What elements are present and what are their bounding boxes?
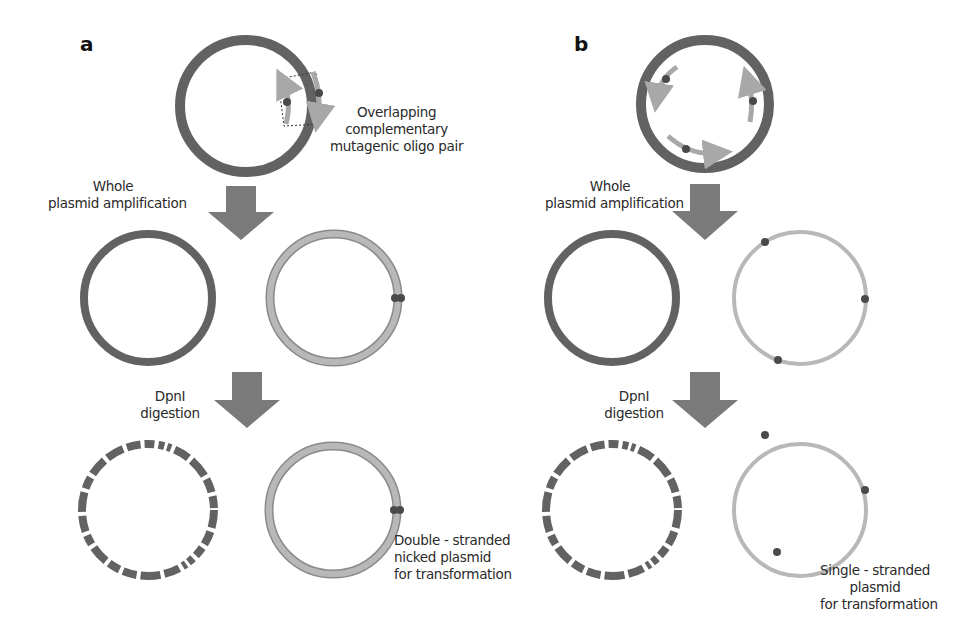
label-line: Whole xyxy=(48,178,178,195)
result-label-a: Double - stranded nicked plasmid for tra… xyxy=(394,532,512,583)
mutation-dot xyxy=(749,97,757,105)
mutation-dot xyxy=(773,548,781,556)
mutation-dot xyxy=(861,295,869,303)
label-line: mutagenic oligo pair xyxy=(330,138,463,155)
result-label-b: Single - stranded plasmid for transforma… xyxy=(820,562,930,613)
panel-b-letter: b xyxy=(574,32,588,56)
primer-arrow-icon xyxy=(668,136,718,153)
label-line: plasmid amplification xyxy=(545,195,675,212)
mutation-dot xyxy=(396,506,404,514)
oligo-pair-label: Overlapping complementary mutagenic olig… xyxy=(330,104,463,155)
mutation-dot xyxy=(761,431,769,439)
step2-label-b: DpnI digestion xyxy=(604,388,664,422)
label-line: complementary xyxy=(330,121,463,138)
mutation-dot xyxy=(315,89,323,97)
label-line: Single - stranded xyxy=(820,562,930,579)
template-plasmid-a xyxy=(180,40,312,172)
label-line: for transformation xyxy=(820,596,930,613)
label-line: DpnI xyxy=(140,388,200,405)
mutation-dot xyxy=(774,356,782,364)
label-line: plasmid amplification xyxy=(48,195,178,212)
down-arrow-icon xyxy=(672,184,738,240)
label-line: DpnI xyxy=(604,388,664,405)
label-line: digestion xyxy=(604,405,664,422)
step2-label-a: DpnI digestion xyxy=(140,388,200,422)
down-arrow-icon xyxy=(208,186,274,240)
mutation-dot xyxy=(397,294,405,302)
down-arrow-icon xyxy=(672,372,738,428)
parental-plasmid-b xyxy=(548,234,676,362)
digested-plasmid-a xyxy=(82,444,214,576)
mutation-dot xyxy=(861,486,869,494)
label-line: digestion xyxy=(140,405,200,422)
label-line: Double - stranded xyxy=(394,532,512,549)
mutation-dot xyxy=(761,238,769,246)
ss-plasmid-b xyxy=(734,444,866,576)
label-line: Whole xyxy=(545,178,675,195)
mutation-dot xyxy=(682,145,690,153)
mutation-dot xyxy=(662,75,670,83)
panel-b xyxy=(546,40,869,576)
nicked-plasmid-a-inner xyxy=(269,446,397,574)
label-line: Overlapping xyxy=(330,104,463,121)
down-arrow-icon xyxy=(214,372,280,428)
label-line: for transformation xyxy=(394,566,512,583)
digested-plasmid-b xyxy=(546,444,678,576)
mutation-dot xyxy=(283,98,291,106)
label-line: plasmid xyxy=(820,579,930,596)
mutant-plasmid-a-inner xyxy=(270,234,398,362)
ss-mutant-plasmid-b xyxy=(734,232,866,364)
step1-label-b: Whole plasmid amplification xyxy=(545,178,675,212)
label-line: nicked plasmid xyxy=(394,549,512,566)
panel-a-letter: a xyxy=(80,32,94,56)
parental-plasmid-a xyxy=(84,234,212,362)
step1-label-a: Whole plasmid amplification xyxy=(48,178,178,212)
